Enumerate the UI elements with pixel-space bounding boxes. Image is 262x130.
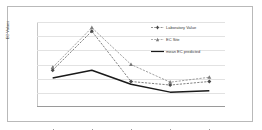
y-axis-title: EC Values [6, 10, 10, 50]
legend-swatch-laboratory-value [151, 25, 164, 30]
legend-entry-ec-site: EC Site [151, 35, 225, 44]
legend-label: EC Site [166, 38, 180, 42]
legend-entry-mean-ec-predicted: mean EC predicted [151, 47, 225, 56]
legend-entry-laboratory-value: Laboratory Value [151, 23, 225, 32]
legend-label: mean EC predicted [166, 50, 200, 54]
chart-legend: Laboratory Value EC Site mean EC predict… [151, 22, 225, 58]
chart-figure: EC Values 1.3 1.1 0.9 0.7 0.5 0.3 0.1 1 … [0, 0, 262, 130]
legend-label: Laboratory Value [166, 26, 196, 30]
legend-swatch-ec-site [151, 37, 164, 42]
legend-swatch-mean-ec-predicted [151, 49, 164, 54]
